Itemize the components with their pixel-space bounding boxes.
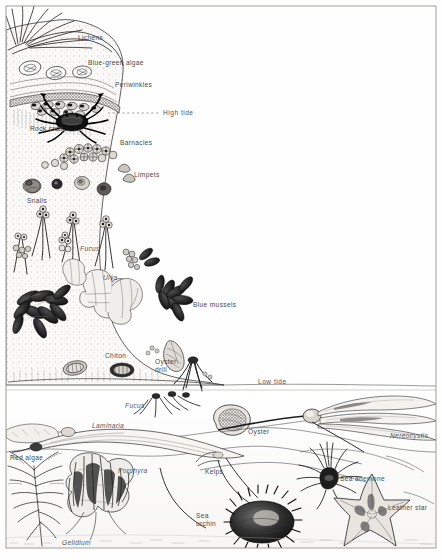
label-barnacles: Barnacles — [120, 139, 152, 147]
label-leather-star: Leather star — [388, 504, 427, 512]
label-nereocystis: Nereocystis — [390, 432, 428, 440]
label-low-tide: Low tide — [258, 378, 287, 386]
label-sea-anemone: Sea anemone — [340, 475, 385, 483]
label-chiton: Chiton — [105, 352, 126, 360]
illustration-canvas: Lichens Blue-green algae Periwinkles Hig… — [0, 0, 442, 560]
label-blue-green-algae: Blue-green algae — [88, 59, 144, 67]
label-porphyra: Porphyra — [118, 467, 148, 475]
label-gelidium: Gelidium — [62, 539, 91, 547]
label-fucus-upper: Fucus — [80, 245, 100, 253]
label-snails: Snails — [27, 197, 47, 205]
label-rock-crab: Rock crab — [30, 125, 63, 133]
label-limpets: Limpets — [134, 171, 160, 179]
label-red-algae: Red algae — [10, 454, 43, 462]
label-ulva: Ulva — [103, 274, 118, 282]
label-periwinkles: Periwinkles — [115, 81, 152, 89]
label-blue-mussels: Blue mussels — [193, 301, 236, 309]
label-kelps: Kelps — [205, 468, 223, 476]
label-fucus-lower: Fucus — [125, 402, 145, 410]
label-sea-urchin: Sea urchin — [196, 512, 226, 529]
label-laminaria: Laminaria — [92, 422, 124, 430]
label-oyster: Oyster — [248, 428, 270, 436]
label-high-tide: High tide — [163, 109, 194, 117]
label-lichens: Lichens — [78, 34, 103, 42]
label-oyster-drill: Oyster drill — [155, 358, 185, 375]
chiton-right — [110, 363, 134, 377]
